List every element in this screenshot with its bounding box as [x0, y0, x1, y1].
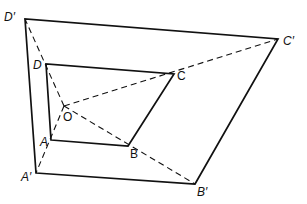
- label-b: B: [130, 147, 138, 161]
- label-c: C: [177, 69, 186, 83]
- label-a: A: [39, 135, 48, 149]
- label-c-prime: C′: [283, 34, 295, 48]
- label-o: O: [63, 110, 72, 124]
- construction-rays: [25, 19, 278, 184]
- label-d-prime: D′: [4, 10, 16, 24]
- label-a-prime: A′: [20, 170, 32, 184]
- label-d: D: [33, 58, 42, 72]
- outer-quadrilateral-a-prime-b-prime-c-prime-d-prime: [25, 19, 278, 184]
- vertex-labels: ABCDA′B′C′D′O: [4, 10, 295, 199]
- label-b-prime: B′: [197, 185, 208, 199]
- enlargement-diagram: ABCDA′B′C′D′O: [0, 0, 307, 204]
